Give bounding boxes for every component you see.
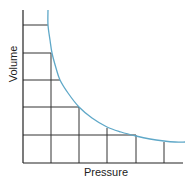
pressure-volume-curve: [48, 10, 185, 142]
x-axis-label: Pressure: [84, 166, 128, 178]
grid-lines: [23, 25, 164, 163]
pressure-volume-chart: [0, 0, 195, 182]
y-axis-label: Volume: [7, 46, 19, 83]
